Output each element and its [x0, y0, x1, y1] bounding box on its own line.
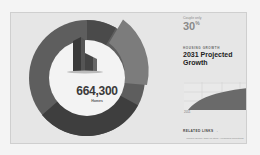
section-title: 2031 Projected Growth	[183, 51, 247, 67]
stat-value: 30%	[183, 20, 200, 32]
source-note: *Couple source: table for study. Househo…	[186, 137, 247, 140]
homes-count: 664,300	[57, 84, 137, 98]
donut-chart	[11, 13, 183, 144]
related-links[interactable]: RELATED LINKS →	[183, 129, 218, 133]
section-kicker: HOUSING GROWTH	[183, 46, 220, 50]
side-panel: Couple only 30% HOUSING GROWTH 2031 Proj…	[183, 13, 247, 144]
area-chart	[184, 82, 247, 110]
chart-x-label: 2011	[184, 110, 190, 114]
infographic-card: 664,300 Homes Couple only 30% HOUSING GR…	[10, 12, 247, 144]
homes-label: Homes	[57, 99, 137, 103]
